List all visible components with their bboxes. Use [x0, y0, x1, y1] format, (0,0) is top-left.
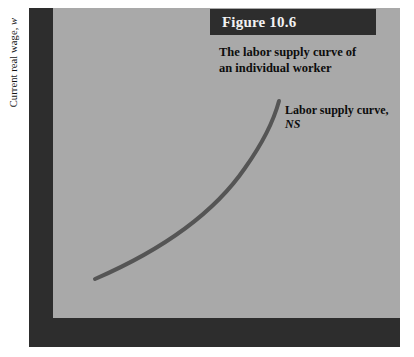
figure-caption: The labor supply curve of an individual …	[219, 44, 399, 76]
y-axis-label-symbol: w	[8, 18, 19, 25]
labor-supply-curve-path	[95, 101, 279, 279]
y-axis-label: Current real wage, w	[8, 3, 19, 123]
figure-number-banner: Figure 10.6	[210, 9, 376, 35]
y-axis-band	[29, 8, 53, 347]
y-axis-label-text: Current real wage,	[8, 28, 19, 108]
figure-caption-line-2: an individual worker	[219, 60, 399, 76]
figure-caption-line-1: The labor supply curve of	[219, 44, 399, 60]
figure-number-label: Figure 10.6	[210, 14, 296, 31]
curve-annotation-symbol: NS	[285, 117, 410, 131]
figure-root: Current real wage, w Figure 10.6 The lab…	[0, 0, 414, 357]
curve-annotation: Labor supply curve, NS	[285, 103, 410, 131]
curve-annotation-line-1: Labor supply curve,	[285, 103, 410, 117]
x-axis-band	[29, 318, 400, 347]
